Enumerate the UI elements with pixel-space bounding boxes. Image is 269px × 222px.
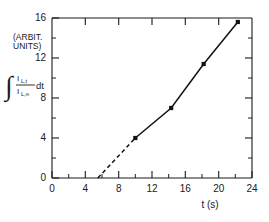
data-point [236,20,240,24]
figure-container: 0 4 8 12 16 20 24 0 4 8 12 16 t (s) (ARB… [0,0,269,222]
x-major-ticks-bottom [52,171,252,178]
y-ticks-right [245,38,252,158]
x-label-0: 0 [49,183,55,194]
x-major-ticks-top [85,18,218,25]
y-axis-integral-label: ∫ I L,t I L,∞ dt [3,71,44,103]
extrapolation-line [98,138,136,178]
y-label-8: 8 [40,92,46,103]
integral-icon: ∫ [3,71,14,103]
y-major-ticks-left [52,18,59,178]
chart-plot: 0 4 8 12 16 20 24 0 4 8 12 16 t (s) (ARB… [0,0,269,222]
data-point [133,136,137,140]
y-label-12: 12 [35,52,47,63]
x-label-4: 4 [83,183,89,194]
numerator-symbol: I [17,74,19,83]
x-label-12: 12 [146,183,158,194]
x-label-16: 16 [180,183,192,194]
data-series-group [98,20,240,178]
y-axis-units-label: (ARBIT. UNITS) [13,32,42,51]
x-label-20: 20 [213,183,225,194]
x-axis-title: t (s) [201,199,218,210]
denominator-symbol: I [17,87,19,96]
data-point [202,62,206,66]
units-line-2: UNITS) [13,41,42,51]
x-label-8: 8 [116,183,122,194]
x-tick-labels: 0 4 8 12 16 20 24 [49,183,258,194]
numerator-subscript: L,t [21,78,28,84]
denominator-subscript: L,∞ [21,91,30,97]
y-label-4: 4 [40,132,46,143]
y-label-16: 16 [35,12,47,23]
x-label-24: 24 [246,183,258,194]
y-label-0: 0 [40,172,46,183]
differential-label: dt [36,80,44,91]
data-point [169,106,173,110]
data-line [135,22,238,138]
